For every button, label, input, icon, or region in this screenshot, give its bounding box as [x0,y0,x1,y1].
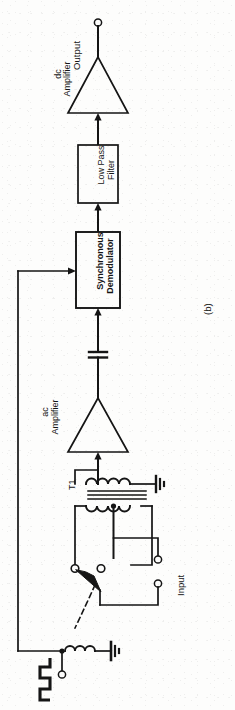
label-ac-amplifier: ac Amplifier [32,387,70,447]
relay-coil-winding [65,646,95,651]
label-low-pass-filter: Low Pass Filter [88,142,126,198]
label-low-pass-filter-text: Low Pass Filter [96,145,115,184]
ac-amplifier-input-arrow [94,452,101,460]
label-input: Input [176,575,186,596]
switch-actuator-dashed-link [75,585,95,628]
square-wave-terminal [58,671,65,678]
demodulator-signal-arrow [94,308,101,316]
label-synchronous-demodulator: Synchronous Demodulator [87,229,125,303]
transformer-core [88,491,146,499]
figure-sheet: Output dc Amplifier Low Pass Filter Sync… [0,0,235,710]
label-ac-amplifier-text: ac Amplifier [40,400,59,435]
reference-arrow-head [68,267,76,274]
relay-coil-ground [111,642,119,660]
square-wave-symbol [40,658,50,700]
switch-contact-right [97,565,105,573]
label-synchronous-demodulator-text: Synchronous Demodulator [95,232,114,294]
transformer-primary-winding [86,506,130,512]
input-terminal-top [154,556,161,563]
input-bottom-return [100,587,158,605]
primary-right-branch [131,506,152,565]
label-dc-amplifier-text: dc Amplifier [53,62,72,97]
transformer-secondary-winding [86,479,130,485]
chopper-switch-blade [76,570,101,592]
figure-caption: (b) [203,303,213,315]
label-transformer-t1: T1 [68,479,77,490]
dc-amplifier-input-arrow [94,113,101,121]
ac-amplifier-triangle [68,398,128,452]
low-pass-filter-input-arrow [94,203,101,211]
input-terminal-bottom [154,580,161,587]
label-dc-amplifier: dc Amplifier [35,48,82,110]
transformer-secondary-ground [156,476,164,492]
